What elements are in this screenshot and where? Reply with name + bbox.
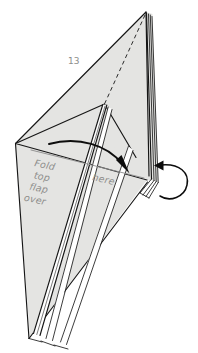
bottom-tip-3 [54, 345, 68, 349]
origami-diagram-container: 13 Fold top flap over here [0, 0, 198, 353]
loop-arrow-shaft [160, 165, 187, 199]
loop-turnover-arrow-icon [154, 161, 187, 199]
step-number-label: 13 [68, 56, 79, 66]
origami-figure: 13 Fold top flap over here [0, 0, 198, 353]
bottom-tip-2 [41, 341, 55, 346]
bottom-tip-1 [29, 339, 42, 343]
